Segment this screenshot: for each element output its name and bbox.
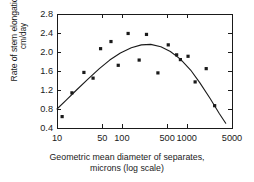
x-axis-title-line1: Geometric mean diameter of separates, <box>50 152 205 162</box>
x-tick-label: 5000 <box>222 134 242 143</box>
x-axis-title: Geometric mean diameter of separates, mi… <box>0 152 254 174</box>
x-axis-title-line2: microns (log scale) <box>0 163 254 174</box>
x-tick-label: 50 <box>97 134 107 143</box>
x-tick-label: 1000 <box>176 134 196 143</box>
x-tick-label: 500 <box>159 134 174 143</box>
chart-figure: Rate of stem elongation, cm/day 2.82.42.… <box>0 0 254 182</box>
x-tick-label: 100 <box>114 134 129 143</box>
x-tick-label: 10 <box>52 134 62 143</box>
